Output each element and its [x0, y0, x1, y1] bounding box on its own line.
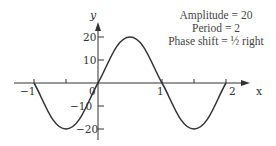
x-axis-label: x — [256, 85, 263, 98]
x-tick-label: 2 — [229, 85, 236, 97]
period-text: Period = 2 — [160, 22, 272, 35]
x-tick-label: 1 — [157, 85, 164, 97]
amplitude-text: Amplitude = 20 — [160, 9, 272, 22]
x-axis-arrow-icon — [241, 80, 250, 86]
y-tick-label: −10 — [70, 100, 92, 112]
y-tick-label: −20 — [76, 123, 98, 135]
y-tick-label: 20 — [83, 31, 96, 43]
x-tick-label: 0 — [89, 85, 96, 97]
x-ticks — [34, 79, 226, 83]
x-tick-label: −1 — [20, 85, 35, 97]
annotation-box: Amplitude = 20 Period = 2 Phase shift = … — [160, 9, 272, 48]
y-axis-label: y — [89, 9, 97, 22]
y-axis-arrow-icon — [95, 22, 101, 31]
phase-shift-text: Phase shift = ½ right — [160, 35, 272, 48]
y-tick-label: 10 — [83, 54, 96, 66]
